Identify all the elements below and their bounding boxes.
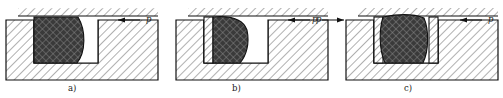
backing-ring-left-b	[204, 17, 213, 63]
o-ring-seal-b	[213, 17, 248, 63]
upper-plate-c	[358, 8, 498, 16]
pressure-label-c-right: p	[488, 14, 494, 24]
o-ring-seal-c	[380, 15, 427, 63]
o-ring-seal-a	[34, 17, 84, 63]
caption-b: b)	[232, 83, 241, 93]
upper-plate-a	[18, 8, 158, 16]
pressure-label-a: p	[146, 14, 152, 24]
caption-a: a)	[68, 83, 76, 93]
pressure-label-c-left: p	[312, 14, 318, 24]
panel-c: p p c)	[312, 8, 498, 93]
backing-ring-right-c	[429, 17, 438, 63]
seal-configurations-diagram: p a)	[0, 0, 503, 98]
panel-a: p a)	[6, 8, 158, 93]
figure-container: p a)	[0, 0, 503, 98]
caption-c: c)	[404, 83, 412, 93]
upper-plate-b	[188, 8, 328, 16]
panel-b: p b)	[176, 8, 328, 93]
